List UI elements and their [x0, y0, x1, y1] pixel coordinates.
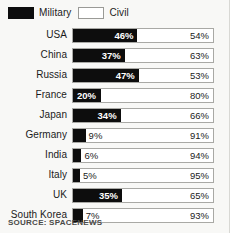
military-value-label: 37% [102, 49, 121, 62]
civil-value-label: 91% [190, 129, 209, 142]
chart-legend: Military Civil [8, 6, 129, 20]
bar-track: 34%66% [72, 108, 214, 123]
military-value-label: 35% [99, 189, 118, 202]
civil-value-label: 95% [190, 169, 209, 182]
country-label: Italy [0, 167, 72, 183]
bar-row: UK35%65% [0, 187, 230, 203]
civil-value-label: 66% [190, 109, 209, 122]
civil-value-label: 93% [190, 209, 209, 222]
bar-row: Italy5%95% [0, 167, 230, 183]
military-value-label: 46% [114, 29, 133, 42]
military-value-label: 47% [116, 69, 135, 82]
bar-row: India6%94% [0, 147, 230, 163]
military-civil-share-chart: Military Civil USA46%54%China37%63%Russi… [0, 0, 230, 233]
military-value-label: 9% [89, 129, 103, 142]
country-label: Japan [0, 107, 72, 123]
country-label: Russia [0, 67, 72, 83]
legend-entry-military: Military [8, 7, 71, 19]
chart-rows: USA46%54%China37%63%Russia47%53%France20… [0, 27, 230, 227]
military-bar-fill: 6% [73, 149, 81, 162]
military-bar-fill: 47% [73, 69, 139, 82]
bar-track: 5%95% [72, 168, 214, 183]
civil-value-label: 63% [190, 49, 209, 62]
country-label: India [0, 147, 72, 163]
country-label: UK [0, 187, 72, 203]
bar-row: USA46%54% [0, 27, 230, 43]
legend-entry-civil: Civil [78, 7, 128, 19]
bar-row: Russia47%53% [0, 67, 230, 83]
bar-track: 35%65% [72, 188, 214, 203]
bar-track: 47%53% [72, 68, 214, 83]
bar-row: Japan34%66% [0, 107, 230, 123]
civil-value-label: 54% [190, 29, 209, 42]
military-value-label: 20% [77, 89, 96, 102]
military-value-label: 6% [84, 149, 98, 162]
country-label: China [0, 47, 72, 63]
bar-track: 6%94% [72, 148, 214, 163]
legend-label-military: Military [39, 7, 71, 19]
military-value-label: 5% [83, 169, 97, 182]
source-credit: SOURCE: SPACENEWS [8, 218, 102, 227]
bar-row: China37%63% [0, 47, 230, 63]
country-label: Germany [0, 127, 72, 143]
bar-track: 20%80% [72, 88, 214, 103]
legend-label-civil: Civil [109, 7, 128, 19]
bar-track: 37%63% [72, 48, 214, 63]
bar-row: Germany9%91% [0, 127, 230, 143]
civil-value-label: 80% [190, 89, 209, 102]
civil-value-label: 65% [190, 189, 209, 202]
military-bar-fill: 5% [73, 169, 80, 182]
military-bar-fill: 35% [73, 189, 122, 202]
military-bar-fill: 46% [73, 29, 137, 42]
military-bar-fill: 20% [73, 89, 101, 102]
bar-track: 46%54% [72, 28, 214, 43]
bar-track: 9%91% [72, 128, 214, 143]
country-label: France [0, 87, 72, 103]
bar-row: France20%80% [0, 87, 230, 103]
military-swatch-icon [8, 7, 34, 19]
civil-swatch-icon [78, 7, 104, 19]
military-bar-fill: 37% [73, 49, 125, 62]
military-bar-fill: 9% [73, 129, 86, 142]
military-value-label: 34% [98, 109, 117, 122]
country-label: USA [0, 27, 72, 43]
military-bar-fill: 34% [73, 109, 121, 122]
civil-value-label: 94% [190, 149, 209, 162]
civil-value-label: 53% [190, 69, 209, 82]
